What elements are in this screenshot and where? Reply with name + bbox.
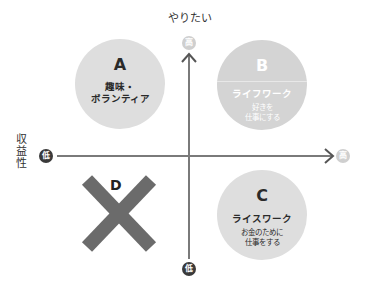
quadrant-title-line: 趣味・ <box>105 81 135 92</box>
quadrant-letter: B <box>217 57 307 75</box>
quadrant-diagram: やりたい 収 益 性 高 低 低 高 A 趣味・ ボランティア B ライフワーク… <box>0 0 366 291</box>
quadrant-description: お金のために 仕事をする <box>217 228 307 248</box>
quadrant-title: ライフワーク <box>217 88 307 100</box>
quadrant-a: A 趣味・ ボランティア <box>75 39 165 129</box>
quadrant-letter: C <box>217 187 307 205</box>
x-high-badge: 高 <box>336 149 350 163</box>
y-low-badge: 低 <box>182 262 196 276</box>
x-axis-label-char: 性 <box>14 158 28 170</box>
x-axis-label: 収 益 性 <box>14 134 28 170</box>
y-axis-label: やりたい <box>150 9 230 25</box>
quadrant-title: ライスワーク <box>217 213 307 225</box>
quadrant-d-letter: D <box>110 177 122 193</box>
quadrant-desc-line: 仕事をする <box>245 238 280 247</box>
x-low-badge: 低 <box>39 149 53 163</box>
divider <box>217 81 307 82</box>
quadrant-title-line: ボランティア <box>91 93 150 104</box>
quadrant-description: 好きを 仕事にする <box>217 103 307 123</box>
y-high-badge: 高 <box>182 36 196 50</box>
quadrant-desc-line: お金のために <box>241 228 283 237</box>
quadrant-b: B ライフワーク 好きを 仕事にする <box>217 40 307 130</box>
quadrant-title: 趣味・ ボランティア <box>75 81 165 105</box>
quadrant-c: C ライスワーク お金のために 仕事をする <box>217 170 307 260</box>
quadrant-desc-line: 仕事にする <box>245 113 280 122</box>
quadrant-letter: A <box>75 56 165 74</box>
quadrant-desc-line: 好きを <box>252 103 273 112</box>
